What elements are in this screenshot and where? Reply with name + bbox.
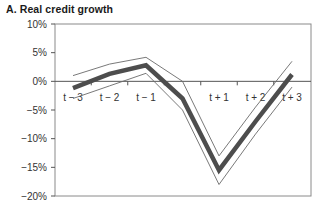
y-tick-label: −5% — [27, 105, 47, 116]
x-tick-label: t − 1 — [136, 92, 156, 103]
y-tick-label: 5% — [33, 47, 48, 58]
y-tick-label: −20% — [21, 191, 47, 202]
band-line — [73, 57, 292, 156]
x-tick-label: t + 1 — [209, 92, 229, 103]
y-tick-label: −15% — [21, 162, 47, 173]
x-tick-label: t + 3 — [282, 92, 302, 103]
y-axis: 10%5%0%−5%−10%−15%−20% — [21, 19, 55, 202]
y-tick-label: −10% — [21, 133, 47, 144]
y-tick-label: 0% — [33, 76, 48, 87]
y-tick-label: 10% — [27, 19, 47, 30]
band-line — [73, 73, 292, 184]
series-lines — [73, 57, 292, 184]
x-tick-label: t − 3 — [63, 92, 83, 103]
line-chart: 10%5%0%−5%−10%−15%−20% t − 3t − 2t − 1t … — [0, 0, 328, 212]
x-tick-label: t − 2 — [100, 92, 120, 103]
